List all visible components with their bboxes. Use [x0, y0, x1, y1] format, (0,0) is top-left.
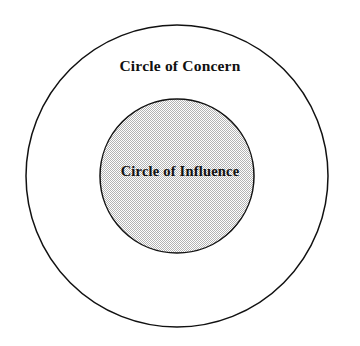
- outer-circle-label: Circle of Concern: [0, 56, 360, 75]
- inner-circle-label: Circle of Influence: [0, 162, 360, 181]
- concentric-circles-diagram: Circle of Concern Circle of Influence: [0, 0, 360, 346]
